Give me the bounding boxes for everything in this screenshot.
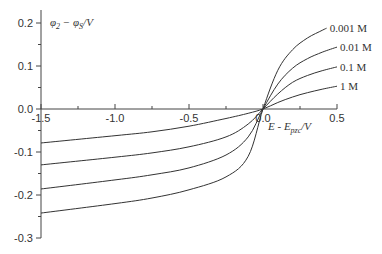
y-tick-label: 0.1 bbox=[18, 60, 33, 72]
x-axis-title: E - Epzc/V bbox=[267, 120, 312, 135]
y-tick-label: -0.2 bbox=[14, 189, 33, 201]
series-label: 0.01 M bbox=[340, 41, 372, 53]
y-axis-title: φ2 − φS/V bbox=[50, 16, 94, 31]
series-label: 0.1 M bbox=[340, 61, 367, 73]
series-labels: 0.001 M0.01 M0.1 M1 M bbox=[330, 22, 372, 92]
line-chart-plot: 0.20.10.0-0.1-0.2-0.3-1.5-1.0-0.50.00.5 … bbox=[0, 0, 382, 254]
chart: 0.20.10.0-0.1-0.2-0.3-1.5-1.0-0.50.00.5 … bbox=[0, 0, 382, 254]
series-label: 0.001 M bbox=[330, 22, 368, 34]
y-tick-label: -0.3 bbox=[14, 232, 33, 244]
series-label: 1 M bbox=[340, 80, 358, 92]
y-tick-label: -0.1 bbox=[14, 146, 33, 158]
x-tick-label: -0.5 bbox=[180, 112, 199, 124]
x-tick-label: -1.0 bbox=[106, 112, 125, 124]
y-tick-label: 0.2 bbox=[18, 17, 33, 29]
x-tick-label: -1.5 bbox=[32, 112, 51, 124]
x-tick-label: 0.5 bbox=[329, 112, 344, 124]
